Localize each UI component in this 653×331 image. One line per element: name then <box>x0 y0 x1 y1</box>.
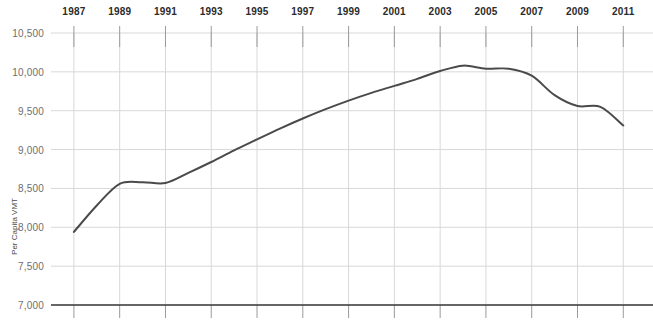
x-tick-label: 2009 <box>566 6 589 17</box>
y-tick-label: 7,500 <box>18 261 44 272</box>
x-tick-label: 1993 <box>200 6 223 17</box>
y-tick-label: 10,000 <box>12 66 44 77</box>
x-tick-label: 1997 <box>291 6 314 17</box>
y-tick-label: 8,000 <box>18 222 44 233</box>
y-tick-label: 10,500 <box>12 28 44 39</box>
chart-container: 1987198919911993199519971999200120032005… <box>0 0 653 331</box>
y-axis-title: Per Capita VMT <box>10 187 19 267</box>
x-tick-label: 2003 <box>429 6 452 17</box>
x-tick-label: 1995 <box>245 6 268 17</box>
x-tick-label: 1999 <box>337 6 360 17</box>
x-tick-label: 2001 <box>383 6 406 17</box>
y-axis: 10,50010,0009,5009,0008,5008,0007,5007,0… <box>0 0 50 331</box>
x-tick-label: 2011 <box>612 6 635 17</box>
x-tick-label: 1987 <box>62 6 85 17</box>
x-tick-label: 1989 <box>108 6 131 17</box>
x-tick-label: 2005 <box>474 6 497 17</box>
y-tick-label: 7,000 <box>18 300 44 311</box>
x-tick-label: 1991 <box>154 6 177 17</box>
y-tick-label: 9,500 <box>18 105 44 116</box>
x-axis: 1987198919911993199519971999200120032005… <box>0 0 653 26</box>
x-tick-label: 2007 <box>520 6 543 17</box>
y-tick-label: 8,500 <box>18 183 44 194</box>
plot-area <box>0 0 653 331</box>
line-chart-svg <box>0 0 653 331</box>
y-tick-label: 9,000 <box>18 144 44 155</box>
